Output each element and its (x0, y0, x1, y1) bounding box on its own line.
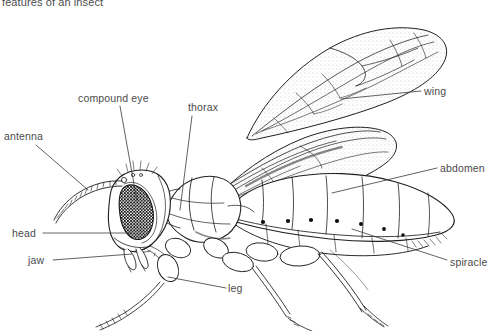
label-jaw: jaw (28, 255, 44, 266)
leg-leader (168, 277, 226, 288)
label-compound-eye: compound eye (78, 93, 149, 104)
antenna-leader (36, 145, 88, 190)
insect-line-drawing (0, 0, 496, 331)
hindleg-shape (245, 241, 388, 327)
jaw-leader (53, 254, 132, 260)
insect-diagram-figure: features of an insect (0, 0, 496, 331)
label-leg: leg (228, 283, 242, 294)
label-head: head (12, 228, 36, 239)
label-thorax: thorax (188, 102, 218, 113)
label-abdomen: abdomen (440, 163, 485, 174)
label-spiracle: spiracle (450, 257, 487, 268)
label-antenna: antenna (4, 131, 43, 142)
label-wing: wing (424, 86, 446, 97)
forewing-shape (247, 28, 447, 140)
